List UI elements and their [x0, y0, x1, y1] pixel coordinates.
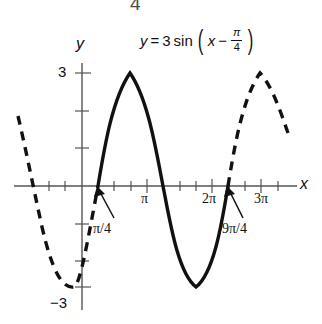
curve-solid-period: [98, 73, 228, 287]
annotation-label-9pi-over-4: 9π/4: [222, 222, 247, 236]
y-axis-label: y: [76, 36, 84, 52]
annotation-arrow-pi-over-4: [94, 186, 114, 218]
x-tick-label-pi: π: [141, 192, 148, 206]
x-axis-label: x: [300, 176, 308, 192]
y-tick-label-3: 3: [58, 64, 66, 79]
curve-dashed-right: [228, 73, 288, 186]
x-tick-label-2pi: 2π: [202, 192, 216, 206]
annotation-label-pi-over-4: π/4: [93, 222, 111, 236]
y-axis-ticks: [75, 73, 91, 287]
plot-canvas: [0, 0, 322, 324]
sine-graph-figure: 4 y = 3 sin ( x − π 4 ): [0, 0, 322, 324]
y-tick-label-minus-3: −3: [50, 295, 67, 310]
x-tick-label-3pi: 3π: [254, 192, 268, 206]
